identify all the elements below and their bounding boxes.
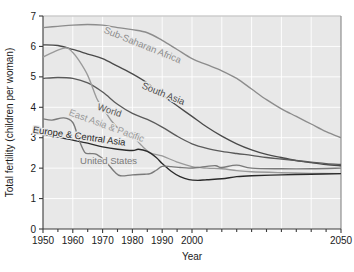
y-tick-label: 1 xyxy=(30,193,36,204)
y-tick-label: 5 xyxy=(30,71,36,82)
x-tick-label: 1980 xyxy=(121,235,144,246)
series-label-united-states: United States xyxy=(80,155,137,166)
x-tick-label: 2000 xyxy=(181,235,204,246)
x-axis-title: Year xyxy=(182,251,203,262)
x-tick-label: 1990 xyxy=(151,235,174,246)
y-tick-label: 4 xyxy=(30,102,36,113)
x-tick-label: 1970 xyxy=(91,235,114,246)
y-tick-label: 6 xyxy=(30,41,36,52)
chart-canvas: 012345671950196019701980199020002050Year… xyxy=(0,0,354,272)
x-tick-label: 2050 xyxy=(330,235,353,246)
x-tick-label: 1960 xyxy=(62,235,85,246)
y-axis-title: Total fertility (children per woman) xyxy=(4,48,15,198)
fertility-line-chart: 012345671950196019701980199020002050Year… xyxy=(0,0,354,272)
y-tick-label: 0 xyxy=(30,224,36,235)
x-tick-label: 1950 xyxy=(32,235,55,246)
y-tick-label: 2 xyxy=(30,163,36,174)
y-tick-label: 7 xyxy=(30,11,36,22)
